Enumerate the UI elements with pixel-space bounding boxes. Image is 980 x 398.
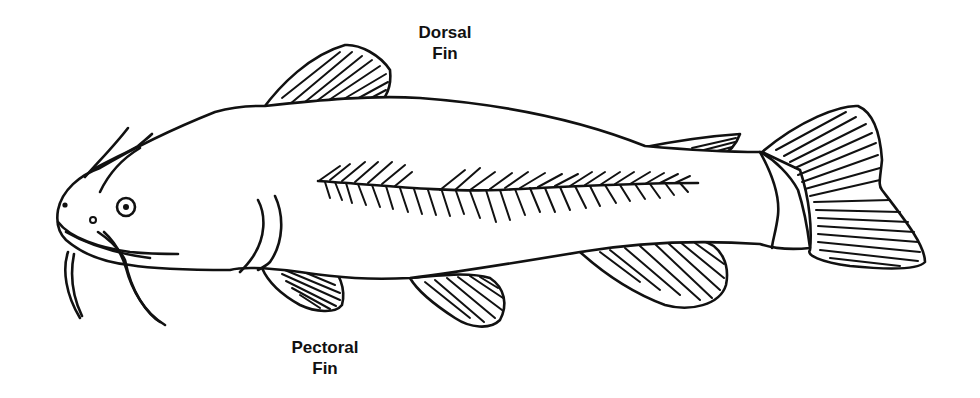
dorsal-fin-label: Dorsal Fin — [405, 22, 485, 64]
pectoral-fin-label: Pectoral Fin — [275, 337, 375, 379]
dorsal-label-line-1: Dorsal — [405, 22, 485, 43]
pectoral-label-line-1: Pectoral — [275, 337, 375, 358]
pectoral-label-line-2: Fin — [275, 358, 375, 379]
pelvic-fin — [410, 275, 504, 327]
dorsal-label-line-2: Fin — [405, 43, 485, 64]
catfish-diagram: Dorsal Fin Pectoral Fin — [0, 0, 980, 398]
catfish-drawing — [0, 0, 980, 398]
